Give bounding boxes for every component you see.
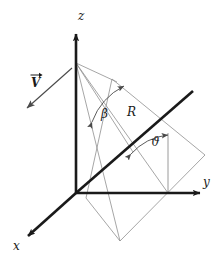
angle-theta-label: ϑ: [151, 136, 160, 148]
vector-v-label: V: [31, 77, 40, 89]
z-axis-label: z: [78, 10, 84, 22]
y-axis-label: y: [203, 176, 210, 188]
angle-beta-label: β: [101, 108, 108, 120]
angle-theta-arc: [131, 135, 168, 154]
radius-label: R: [127, 106, 136, 118]
ray-to-point-p: [76, 63, 168, 193]
inclined-plane-outline: [86, 79, 205, 241]
coordinate-system-diagram: [0, 0, 221, 269]
x-axis: [28, 193, 76, 236]
x-axis-label: x: [13, 240, 20, 252]
ray-to-plane-bottom: [76, 63, 120, 241]
angle-beta-arc: [92, 86, 124, 122]
